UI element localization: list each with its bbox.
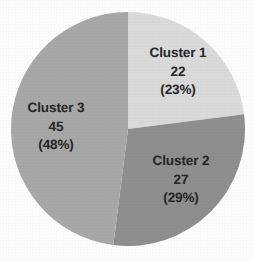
pie-label-cluster-2-value: 27 [133,171,229,190]
pie-chart-figure: Cluster 1 22 (23%) Cluster 2 27 (29%) Cl… [0,0,254,262]
pie-label-cluster-1-percent: (23%) [130,81,226,100]
pie-label-cluster-1-value: 22 [130,63,226,82]
pie-label-cluster-2: Cluster 2 27 (29%) [133,152,229,208]
pie-label-cluster-2-name: Cluster 2 [133,152,229,171]
pie-label-cluster-1-name: Cluster 1 [130,44,226,63]
pie-label-cluster-2-percent: (29%) [133,189,229,208]
pie-label-cluster-3-percent: (48%) [8,136,104,155]
pie-label-cluster-3: Cluster 3 45 (48%) [8,99,104,155]
pie-label-cluster-1: Cluster 1 22 (23%) [130,44,226,100]
pie-label-cluster-3-value: 45 [8,118,104,137]
pie-label-cluster-3-name: Cluster 3 [8,99,104,118]
